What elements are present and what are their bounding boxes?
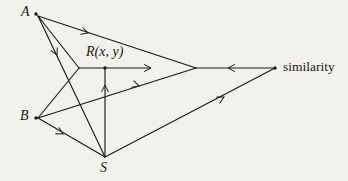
node-label-S: S [100, 161, 107, 175]
node-label-R: R(x, y) [86, 45, 123, 59]
node-dot-similarity [273, 66, 276, 69]
node-dot-R [103, 66, 106, 69]
node-label-A: A [21, 5, 30, 19]
node-dot-B [34, 116, 37, 119]
node-label-similarity: similarity [283, 60, 335, 74]
edge-vertex2-to-B [38, 68, 196, 118]
diagram-canvas: V1 (short edge down to left vertex of R … [0, 0, 348, 181]
arrowhead-toward-similarity [217, 94, 226, 103]
diagram-vector-layer: V1 (short edge down to left vertex of R … [0, 0, 348, 181]
edge-vertex2-to-A [38, 16, 196, 68]
edge-S-to-vertex2 [105, 68, 275, 157]
node-dot-A [34, 12, 37, 15]
node-label-B: B [20, 109, 29, 123]
edge-B-to-vertex1 [38, 68, 79, 118]
edge-S-to-B [38, 118, 105, 157]
edge-S-to-A [38, 16, 105, 157]
